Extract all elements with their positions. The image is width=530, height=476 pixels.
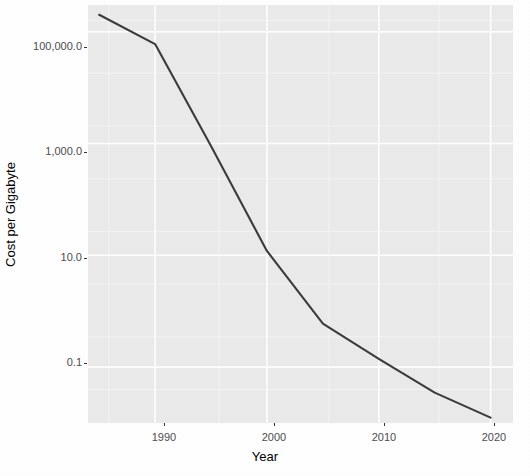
minor-grid-horizontal — [88, 21, 513, 390]
y-tick-mark — [84, 363, 87, 364]
x-tick-label: 2010 — [354, 431, 414, 443]
y-tick-mark — [84, 258, 87, 259]
y-tick-label: 10.0 — [12, 252, 82, 263]
y-axis: 100,000.0 1,000.0 10.0 0.1 — [10, 0, 82, 476]
plot-area — [88, 5, 513, 423]
data-line-cost-per-gigabyte — [99, 15, 490, 418]
x-tick-mark — [384, 423, 385, 426]
y-tick-mark — [84, 152, 87, 153]
y-tick-mark — [84, 47, 87, 48]
major-grid-horizontal — [88, 32, 513, 367]
plot-panel — [88, 5, 513, 423]
y-axis-title: Cost per Gigabyte — [3, 162, 18, 267]
x-tick-label: 2000 — [244, 431, 304, 443]
x-axis-title: Year — [0, 449, 530, 464]
x-tick-label: 1990 — [134, 431, 194, 443]
x-tick-mark — [164, 423, 165, 426]
major-grid-vertical — [155, 5, 491, 423]
x-tick-mark — [494, 423, 495, 426]
y-tick-label: 0.1 — [12, 357, 82, 368]
chart-figure: 100,000.0 1,000.0 10.0 0.1 1990 2000 201… — [0, 0, 530, 476]
y-tick-label: 1,000.0 — [12, 146, 82, 157]
x-tick-mark — [274, 423, 275, 426]
minor-grid-vertical — [109, 5, 439, 423]
x-tick-label: 2020 — [464, 431, 524, 443]
y-tick-label: 100,000.0 — [12, 41, 82, 52]
y-axis-title-wrapper: Cost per Gigabyte — [0, 0, 20, 428]
